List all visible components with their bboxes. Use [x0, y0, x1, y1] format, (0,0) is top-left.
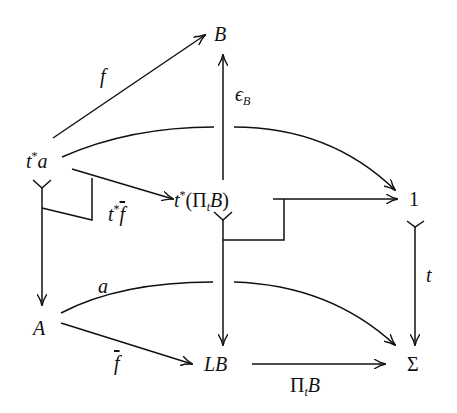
label-t: t [426, 265, 432, 285]
arrow-t-star-fbar [72, 169, 173, 199]
arrow-a [61, 282, 213, 313]
label-fbar: f [114, 353, 120, 373]
mono-tail-left [33, 180, 51, 188]
label-epsilon-b: ϵB [235, 84, 250, 107]
label-a: a [98, 276, 108, 296]
node-t-star-pitb: t*(ΠtB) [174, 189, 229, 213]
node-b: B [214, 24, 226, 44]
mono-tail-middle [214, 212, 232, 220]
node-lb: LB [204, 354, 227, 374]
arrow-f [53, 35, 205, 138]
label-f: f [100, 66, 106, 86]
node-one: 1 [409, 189, 419, 209]
label-pitb: ΠtB [290, 375, 320, 398]
pullback-corner-left [42, 178, 92, 220]
node-t-star-a: t*a [26, 150, 48, 171]
arrow-t-star-a-to-one [62, 127, 214, 157]
arrow-fbar [61, 323, 192, 364]
node-a: A [33, 318, 45, 338]
pullback-corner-right [223, 199, 284, 240]
node-sigma: Σ [407, 354, 419, 374]
mono-tail-right [407, 221, 424, 227]
label-t-star-fbar: t*f [108, 203, 125, 224]
